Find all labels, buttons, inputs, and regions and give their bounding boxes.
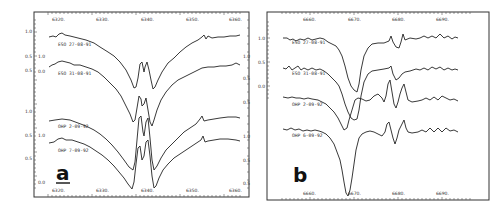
panel-b-xtick-top-2: 6670.: [348, 17, 361, 22]
panel-a-xtick-bottom-3: 6340.: [141, 188, 154, 193]
panel-a-plot: 6320. 6330. 6340. 6350. 6360. 6320. 6330…: [0, 0, 260, 210]
panel-a-ytick-right-5: 0.5: [243, 158, 250, 163]
panel-b-ytick-left-3: 0.0: [258, 84, 265, 89]
panel-b-letter: b: [293, 163, 307, 187]
panel-a-spectrum-ohp-7-09-92: [49, 136, 240, 189]
panel-a-letter: a: [56, 161, 70, 185]
panel-b-xtick-bottom-3: 6680.: [392, 191, 405, 196]
panel-a-ytick-right-1: 1.0: [243, 54, 250, 59]
panel-b-xtick-top-1: 6660.: [303, 17, 316, 22]
panel-a-ytick-left-4: 0.5: [25, 68, 32, 73]
panel-a-xtick-top-1: 6320.: [52, 17, 65, 22]
panel-b: 6660. 6670. 6680. 6690. 6660. 6670. 6680…: [255, 0, 501, 210]
panel-b-xtick-top-3: 6680.: [392, 17, 405, 22]
panel-a-ytick-left-6: 1.0: [25, 109, 32, 114]
panel-a-xtick-top-2: 6330.: [96, 17, 109, 22]
panel-b-spectrum-ohp-6-09-92: [283, 120, 458, 196]
panel-a-ytick-left-9: 0.5: [25, 156, 32, 161]
panel-b-ytick-left-1: 1.0: [258, 36, 265, 41]
panel-b-plot: 6660. 6670. 6680. 6690. 6660. 6670. 6680…: [255, 0, 501, 210]
panel-b-xtick-bottom-1: 6660.: [303, 191, 316, 196]
panel-a-ytick-left-3: 1.0: [38, 54, 45, 59]
panel-a-xtick-bottom-4: 6350.: [186, 188, 199, 193]
panel-a-xtick-top-5: 6360.: [229, 17, 242, 22]
panel-a-xtick-bottom-5: 6360.: [229, 188, 242, 193]
panel-b-label-ohp-2-09-92: OHP 2-09-92: [292, 102, 323, 107]
panel-b-label-ohp-6-09-92: OHP 6-09-92: [292, 133, 323, 138]
panel-a-ytick-right-2: 0.5: [243, 76, 250, 81]
panel-b-label-eso-27-08-91: ESO 27-08-91: [292, 40, 325, 45]
panel-a-ytick-right-6: 0.5: [243, 181, 250, 186]
panel-a-xtick-bottom-2: 6330.: [96, 188, 109, 193]
panel-b-ytick-left-2: 0.5: [258, 60, 265, 65]
panel-a-label-ohp-7-09-92: OHP 7-09-92: [58, 148, 89, 153]
panel-a-ytick-left-1: 1.0: [25, 29, 32, 34]
panel-a-xtick-top-4: 6350.: [186, 17, 199, 22]
panel-a-xtick-top-3: 6340.: [141, 17, 154, 22]
panel-a-ytick-left-7: 0.5: [25, 133, 32, 138]
panel-a-xtick-bottom-1: 6320.: [52, 188, 65, 193]
panel-a-ytick-left-2: 0.5: [25, 54, 32, 59]
panel-a-ytick-left-10: 0.0: [38, 180, 45, 185]
panel-a-ytick-left-8: 1.0: [38, 133, 45, 138]
panel-a-ytick-right-4: 1.0: [243, 134, 250, 139]
panel-a-ytick-left-5: 0.0: [38, 69, 45, 74]
panel-b-xtick-bottom-2: 6670.: [348, 191, 361, 196]
panel-a-label-eso-27-08-91: ESO 27-08-91: [58, 42, 91, 47]
panel-b-xtick-top-4: 6690.: [436, 17, 449, 22]
panel-a-label-ohp-2-09-92: OHP 2-09-92: [58, 124, 89, 129]
panel-a: 6320. 6330. 6340. 6350. 6360. 6320. 6330…: [0, 0, 260, 210]
panel-b-label-eso-31-08-91: ESO 31-08-91: [292, 71, 325, 76]
panel-b-xtick-bottom-4: 6690.: [436, 191, 449, 196]
panel-a-label-eso-31-08-91: ESO 31-08-91: [58, 71, 91, 76]
panel-a-ytick-right-3: 0.5: [243, 100, 250, 105]
